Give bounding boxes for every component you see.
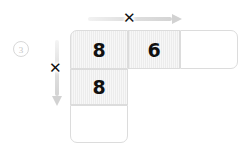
screenshot-canvas: 3 ✕ ✕ 8 6 8 [0, 0, 250, 152]
grid-cell-row1-col3[interactable] [180, 30, 238, 69]
grid-cell-row3-col1[interactable] [70, 105, 128, 143]
grid-cell-row2-col1[interactable]: 8 [70, 69, 128, 105]
grid-cell-row1-col2[interactable]: 6 [128, 30, 180, 69]
number-grid: 8 6 8 [0, 0, 250, 152]
grid-cell-row1-col1[interactable]: 8 [70, 30, 128, 69]
